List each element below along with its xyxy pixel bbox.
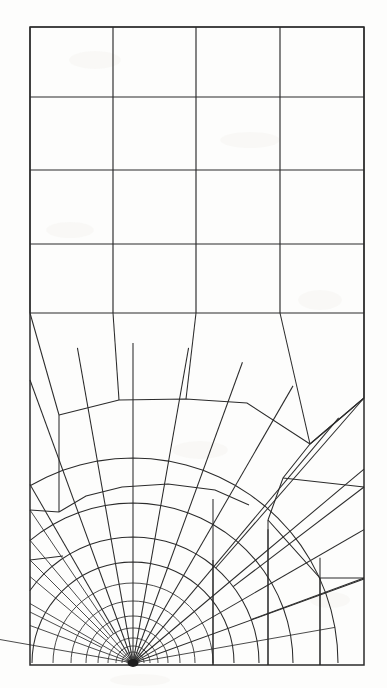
concentric-arcs [30,458,338,663]
transition-connector-1 [113,313,119,400]
figure-root [0,0,387,688]
outer-ray-right-1 [233,487,364,587]
transition-connector-3 [280,313,310,444]
radial-ray-1 [136,627,335,662]
radial-ray-11 [30,380,132,660]
radial-ray-17 [0,627,130,662]
crack-tip-node [128,659,139,667]
radial-ray-2 [136,579,364,662]
radial-ray-5 [135,418,339,661]
finite-element-mesh [0,0,387,688]
arc-ring-11 [31,458,339,663]
radial-ray-4 [135,469,364,661]
radial-ray-13 [30,540,131,661]
transition-band [30,313,364,560]
outer-boundary [30,27,364,665]
transition-connector-0 [30,313,59,415]
radial-rays [0,343,364,663]
right-cap-b [268,444,310,520]
right-cap-a [310,398,364,444]
radial-ray-7 [134,362,243,660]
inner-chord-chain [59,484,249,512]
outer-coarse-rays [30,398,364,665]
grid-horizontal-lines [30,27,364,313]
